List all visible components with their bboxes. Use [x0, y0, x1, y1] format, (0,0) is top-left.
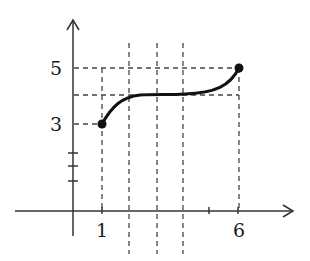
end-point — [235, 64, 244, 73]
y-label-5: 5 — [50, 57, 62, 79]
x-label-1: 1 — [96, 219, 108, 241]
x-label-6: 6 — [233, 219, 245, 241]
function-graph: 5 3 1 6 — [0, 0, 310, 261]
function-curve — [102, 68, 239, 124]
start-point — [98, 120, 107, 129]
y-label-3: 3 — [50, 113, 62, 135]
